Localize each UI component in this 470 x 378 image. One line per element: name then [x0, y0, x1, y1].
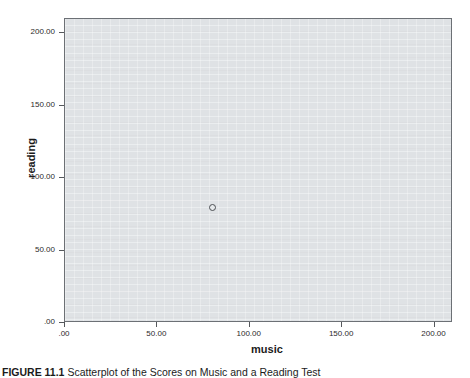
y-axis-tick	[59, 322, 64, 323]
x-axis-tick	[249, 322, 250, 327]
y-axis-tick-label: 200.00	[0, 27, 55, 37]
figure-caption-label: FIGURE 11.1	[2, 366, 64, 378]
y-axis-tick	[59, 105, 64, 106]
panel-texture	[65, 19, 451, 321]
x-axis-title: music	[0, 343, 470, 355]
x-axis-tick-label: 150.00	[311, 329, 371, 339]
x-axis-tick-label: 50.00	[126, 329, 186, 339]
y-axis-tick	[59, 32, 64, 33]
x-axis-tick-label: 100.00	[219, 329, 279, 339]
scatter-point	[209, 204, 216, 211]
x-axis-tick	[64, 322, 65, 327]
x-axis-title-text: music	[251, 343, 283, 355]
y-axis-tick	[59, 177, 64, 178]
figure-caption-text: Scatterplot of the Scores on Music and a…	[67, 366, 320, 378]
figure-caption: FIGURE 11.1 Scatterplot of the Scores on…	[2, 366, 470, 378]
x-axis-tick	[434, 322, 435, 327]
x-axis-tick	[156, 322, 157, 327]
y-axis-title: reading	[25, 113, 37, 203]
y-axis-tick-label: 150.00	[0, 100, 55, 110]
plot-area	[64, 18, 452, 322]
x-axis-tick-label: 200.00	[404, 329, 464, 339]
x-axis-tick-label: .00	[34, 329, 94, 339]
figure-container: .0050.00100.00150.00200.00.0050.00100.00…	[0, 0, 470, 378]
x-axis-tick	[341, 322, 342, 327]
y-axis-tick-label: 50.00	[0, 245, 55, 255]
y-axis-tick	[59, 250, 64, 251]
y-axis-tick-label: .00	[0, 317, 55, 327]
